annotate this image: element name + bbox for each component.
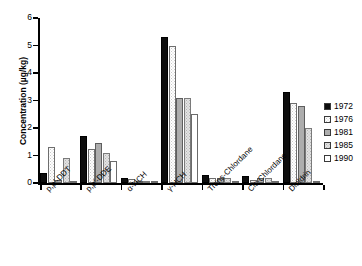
bar <box>283 92 290 183</box>
legend-swatch <box>324 116 331 123</box>
y-tick-mark <box>33 100 38 102</box>
bar-group <box>80 18 120 183</box>
bar-group <box>161 18 201 183</box>
bar <box>143 181 150 183</box>
chart-legend: 19721976198119851990 <box>324 100 362 165</box>
y-tick-label: 2 <box>16 123 32 131</box>
legend-swatch <box>324 129 331 136</box>
legend-item: 1972 <box>324 100 362 113</box>
legend-swatch <box>324 103 331 110</box>
y-tick-mark <box>33 182 38 184</box>
bar <box>202 175 209 183</box>
bar-group <box>121 18 161 183</box>
legend-label: 1976 <box>334 115 353 124</box>
y-tick-label: 0 <box>16 178 32 186</box>
bar <box>70 181 77 183</box>
legend-label: 1985 <box>334 141 353 150</box>
y-tick-label: 5 <box>16 41 32 49</box>
y-tick-mark <box>33 17 38 19</box>
bar <box>121 178 128 184</box>
y-tick-mark <box>33 45 38 47</box>
y-tick-label: 3 <box>16 96 32 104</box>
bar <box>40 173 47 183</box>
bar <box>290 103 297 183</box>
y-tick-label: 6 <box>16 13 32 21</box>
bar-group <box>283 18 323 183</box>
legend-swatch <box>324 155 331 162</box>
legend-label: 1990 <box>334 154 353 163</box>
x-axis-labels: p,p'-DDTp,p'-DDEα-HCHγ-HCHTrans-Chlordan… <box>38 187 323 265</box>
bar <box>184 98 191 183</box>
x-tick-mark <box>323 185 325 190</box>
bar <box>313 181 320 183</box>
bar <box>80 136 87 183</box>
legend-swatch <box>324 142 331 149</box>
legend-item: 1976 <box>324 113 362 126</box>
bar <box>151 181 158 183</box>
bar <box>272 181 279 183</box>
bar <box>191 114 198 183</box>
legend-label: 1981 <box>334 128 353 137</box>
bar <box>232 181 239 183</box>
legend-item: 1990 <box>324 152 362 165</box>
bar <box>169 46 176 184</box>
legend-item: 1981 <box>324 126 362 139</box>
legend-label: 1972 <box>334 102 353 111</box>
bar-group <box>40 18 80 183</box>
y-tick-label: 1 <box>16 151 32 159</box>
bar-chart: Concentration (µg/kg) 0123456 p,p'-DDTp,… <box>0 0 362 266</box>
y-tick-mark <box>33 72 38 74</box>
bar <box>161 37 168 183</box>
bar <box>242 176 249 183</box>
y-tick-mark <box>33 155 38 157</box>
legend-item: 1985 <box>324 139 362 152</box>
y-tick-mark <box>33 127 38 129</box>
y-tick-label: 4 <box>16 68 32 76</box>
